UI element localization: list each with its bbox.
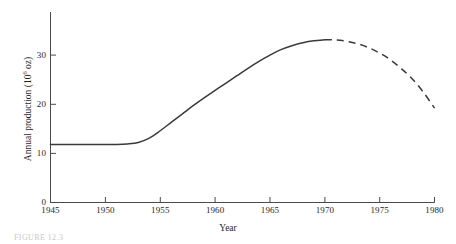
x-tick-label-1960: 1960: [198, 205, 232, 215]
x-tick-label-1955: 1955: [143, 205, 177, 215]
y-axis-title: Annual production (106 oz): [23, 29, 33, 189]
x-tick-label-1980: 1980: [418, 205, 452, 215]
series-line-projection: [325, 40, 435, 108]
series-line-historical: [51, 40, 325, 145]
y-axis-ticks: [51, 55, 57, 202]
x-tick-label-1970: 1970: [308, 205, 342, 215]
x-tick-label-1975: 1975: [363, 205, 397, 215]
figure-caption: FIGURE 12.3: [14, 233, 63, 242]
x-axis-title: Year: [0, 223, 456, 233]
x-tick-label-1950: 1950: [88, 205, 122, 215]
x-tick-label-1945: 1945: [34, 205, 68, 215]
figure-root: 30 20 10 0 1945 1950 1955 1960 1965 1970…: [0, 0, 456, 244]
y-axis-title-exponent: 6: [21, 71, 28, 74]
y-axis-title-tail: oz): [23, 57, 33, 72]
x-axis-ticks: [51, 197, 435, 203]
x-tick-label-1965: 1965: [253, 205, 287, 215]
y-axis-title-base: Annual production (10: [23, 75, 33, 162]
